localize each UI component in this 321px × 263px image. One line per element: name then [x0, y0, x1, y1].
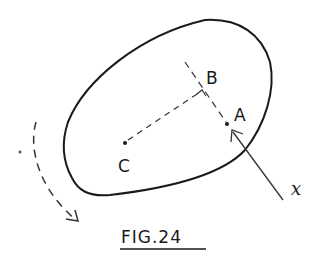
figure-canvas: B A C x FIG.24 — [0, 0, 321, 263]
right-angle-marker — [197, 90, 206, 96]
force-label-x: x — [291, 178, 301, 199]
point-a — [225, 122, 229, 126]
force-arrow-shaft — [233, 132, 283, 200]
label-a: A — [234, 105, 246, 125]
label-c: C — [118, 156, 130, 176]
point-c — [123, 141, 127, 145]
label-b: B — [206, 68, 218, 88]
rotation-center-dot — [19, 151, 22, 154]
figure-caption: FIG.24 — [121, 227, 182, 247]
line-c-to-b — [128, 92, 200, 140]
force-arrow-head-icon — [231, 130, 243, 142]
